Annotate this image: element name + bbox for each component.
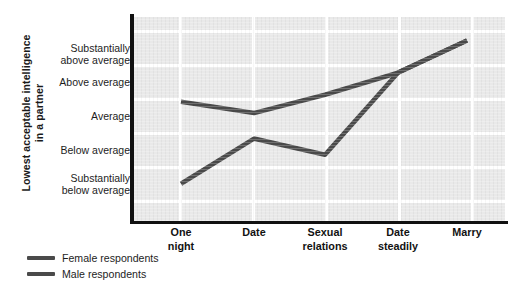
data-series-layer [133, 17, 505, 221]
x-tick-label-marry: Marry [412, 226, 522, 240]
y-tick-label-above-average: Above average [44, 76, 130, 88]
line-male-respondents [181, 41, 467, 184]
legend-swatch-male [27, 272, 55, 276]
line-female-respondents [181, 41, 467, 114]
legend-item-female-respondents: Female respondents [27, 250, 159, 266]
x-tick-line-2: steadily [343, 240, 453, 254]
y-tick-line-2: below average [44, 184, 130, 196]
legend-label-female: Female respondents [62, 252, 159, 264]
x-axis-tick-labels: One night Date Sexual relations Date ste… [133, 226, 505, 262]
y-axis-title-line-1: Lowest acceptable intelligence [20, 34, 33, 191]
legend-item-male-respondents: Male respondents [27, 266, 159, 282]
y-tick-label-below-average: Below average [44, 144, 130, 156]
legend-label-male: Male respondents [62, 268, 146, 280]
chart-legend: Female respondents Male respondents [27, 250, 159, 282]
y-axis-line [130, 14, 134, 224]
y-tick-line-1: Substantially [44, 172, 130, 184]
chart-figure: Lowest acceptable intelligence in a part… [0, 0, 526, 289]
plot-area [133, 17, 505, 221]
y-tick-line-1: Substantially [44, 42, 130, 54]
y-tick-line-1: Below average [44, 144, 130, 156]
y-tick-label-average: Average [44, 110, 130, 122]
y-tick-line-1: Average [44, 110, 130, 122]
x-tick-line-1: Marry [412, 226, 522, 240]
x-axis-line [130, 221, 508, 224]
y-tick-line-1: Above average [44, 76, 130, 88]
y-tick-line-2: above average [44, 54, 130, 66]
y-tick-label-substantially-above-average: Substantially above average [44, 42, 130, 67]
y-axis-tick-labels: Substantially above average Above averag… [44, 17, 130, 221]
y-tick-label-substantially-below-average: Substantially below average [44, 172, 130, 197]
legend-swatch-female [27, 256, 55, 260]
